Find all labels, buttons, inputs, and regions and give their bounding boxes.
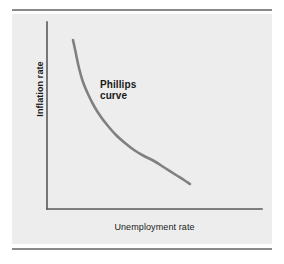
phillips-curve-annotation: Phillips curve xyxy=(100,79,136,101)
phillips-curve-line xyxy=(73,40,190,184)
bottom-divider-rule xyxy=(12,248,272,250)
phillips-curve-figure: Phillips curve Unemployment rate Inflati… xyxy=(0,0,284,264)
y-axis-label: Inflation rate xyxy=(35,49,45,129)
x-axis-label: Unemployment rate xyxy=(47,222,262,232)
